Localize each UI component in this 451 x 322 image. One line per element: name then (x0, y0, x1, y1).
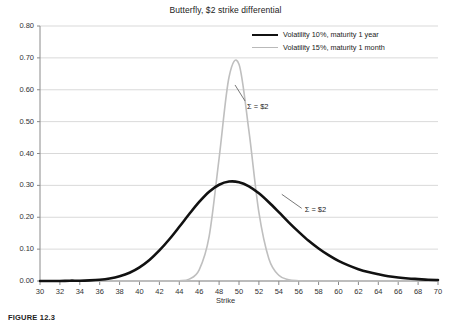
chart-annotation: Σ = $2 (247, 102, 269, 111)
chart-annotation: Σ = $2 (305, 205, 327, 214)
x-axis-tick-label: 48 (210, 287, 228, 296)
x-axis-tick-label: 36 (91, 287, 109, 296)
series-line-2 (40, 60, 438, 281)
x-axis-tick-label: 68 (409, 287, 427, 296)
y-axis-tick-label: 0.20 (8, 212, 34, 221)
x-axis-tick-label: 60 (330, 287, 348, 296)
x-axis-tick-label: 54 (270, 287, 288, 296)
figure-caption: FIGURE 12.3 (8, 313, 55, 322)
legend-item-label: Volatility 10%, maturity 1 year (283, 30, 379, 39)
x-axis-tick-label: 30 (31, 287, 49, 296)
chart-legend: Volatility 10%, maturity 1 year Volatili… (252, 28, 442, 54)
x-axis-tick-label: 38 (111, 287, 129, 296)
y-axis-tick-label: 0.50 (8, 117, 34, 126)
x-axis-tick-label: 64 (369, 287, 387, 296)
figure-container: Butterfly, $2 strike differential Volati… (0, 0, 451, 322)
x-axis-title: Strike (0, 296, 451, 305)
x-axis-tick-label: 46 (190, 287, 208, 296)
y-axis-tick-label: 0.70 (8, 53, 34, 62)
x-axis-tick-label: 44 (170, 287, 188, 296)
x-axis-tick-label: 66 (389, 287, 407, 296)
x-axis-tick-label: 70 (429, 287, 447, 296)
y-axis-tick-label: 0.60 (8, 85, 34, 94)
x-axis-tick-label: 58 (310, 287, 328, 296)
legend-item: Volatility 15%, maturity 1 month (252, 41, 442, 54)
y-axis-tick-label: 0.00 (8, 276, 34, 285)
x-axis-tick-label: 52 (250, 287, 268, 296)
x-axis-tick-label: 42 (150, 287, 168, 296)
annotation-leader-line (282, 194, 302, 208)
legend-item: Volatility 10%, maturity 1 year (252, 28, 442, 41)
legend-item-label: Volatility 15%, maturity 1 month (283, 43, 385, 52)
x-axis-tick-label: 50 (230, 287, 248, 296)
series-line-1 (40, 181, 438, 281)
y-axis-tick-label: 0.80 (8, 21, 34, 30)
x-axis-tick-label: 34 (71, 287, 89, 296)
y-axis-tick-label: 0.10 (8, 244, 34, 253)
x-axis-tick-label: 62 (349, 287, 367, 296)
legend-line-swatch-grey (252, 47, 278, 48)
y-axis-tick-label: 0.30 (8, 180, 34, 189)
legend-line-swatch-black (252, 34, 278, 36)
y-axis-tick-label: 0.40 (8, 149, 34, 158)
x-axis-tick-label: 32 (51, 287, 69, 296)
x-axis-tick-label: 56 (290, 287, 308, 296)
x-axis-tick-label: 40 (131, 287, 149, 296)
